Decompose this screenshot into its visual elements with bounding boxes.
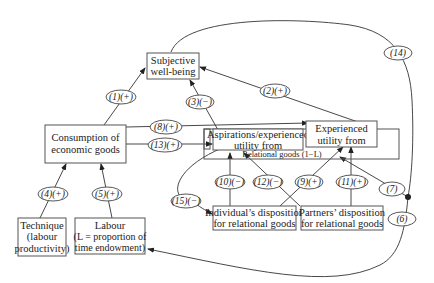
node-aspirations-line2: utility from: [234, 140, 282, 151]
node-aspirations: Aspirations/experienced utility from: [204, 129, 310, 151]
node-labour-line1: Labour: [95, 220, 126, 231]
edge-label-14: (14): [384, 46, 412, 60]
node-partners-disposition: Partners’ disposition for relational goo…: [299, 206, 386, 230]
node-subjective-wellbeing: Subjective well-being: [147, 53, 199, 79]
junction-dot: [405, 194, 411, 200]
edge-label-9: (9)(+): [295, 175, 323, 189]
edge-label-15: (15)(−): [171, 194, 201, 208]
edge-label-15-text: (15)(−): [172, 196, 201, 207]
causal-diagram: Subjective well-being Consumption of eco…: [0, 0, 434, 283]
node-technique-line3: productivity): [15, 243, 70, 255]
node-labour-line3: time endowment): [75, 242, 145, 254]
node-consumption-line2: economic goods: [51, 144, 120, 155]
node-experienced-line1: Experienced: [315, 123, 368, 134]
node-experienced-line2: utility from: [317, 135, 365, 146]
edge-label-1: (1)(+): [106, 90, 136, 104]
node-technique: Technique (labour productivity): [15, 218, 70, 256]
edge-label-12: (12)(−): [253, 175, 283, 189]
edge-label-9-text: (9)(+): [297, 177, 321, 188]
node-individual-disposition: Individual’s disposition for relational …: [205, 206, 305, 230]
node-subjective-wellbeing-line2: well-being: [151, 66, 197, 77]
edge-label-14-text: (14): [390, 48, 406, 59]
edge-label-6-text: (6): [396, 214, 407, 225]
edge-label-7-text: (7): [386, 184, 397, 195]
edge-label-5-text: (5)(+): [95, 189, 119, 200]
node-individual-disposition-line2: for relational goods: [213, 218, 295, 229]
edge-label-11-text: (11)(+): [338, 177, 366, 188]
node-technique-line2: (labour: [27, 231, 58, 243]
edge-label-13: (13)(+): [148, 138, 182, 152]
edge-label-11: (11)(+): [336, 175, 368, 189]
edge-label-3-text: (3)(−): [188, 97, 212, 108]
edge-label-1-text: (1)(+): [109, 92, 133, 103]
node-aspirations-line1: Aspirations/experienced: [207, 129, 310, 140]
edge-label-8-text: (8)(+): [154, 122, 178, 133]
edge-14: [171, 21, 413, 197]
node-partners-disposition-line1: Partners’ disposition: [299, 207, 386, 218]
node-partners-disposition-line2: for relational goods: [301, 218, 383, 229]
edge-label-6: (6): [388, 212, 416, 226]
node-labour: Labour (L = proportion of time endowment…: [74, 218, 147, 254]
edge-label-5: (5)(+): [92, 187, 122, 201]
edge-label-7: (7): [379, 182, 405, 196]
node-individual-disposition-line1: Individual’s disposition: [205, 207, 305, 218]
edge-label-4-text: (4)(+): [41, 189, 65, 200]
edge-label-8: (8)(+): [150, 120, 182, 134]
edge-label-2-text: (2)(+): [263, 86, 287, 97]
edge-label-10: (10)(−): [215, 175, 245, 189]
edge-label-13-text: (13)(+): [151, 140, 180, 151]
edge-label-2: (2)(+): [260, 84, 290, 98]
edge-label-3: (3)(−): [186, 95, 214, 109]
node-technique-line1: Technique: [20, 220, 64, 231]
node-experienced: Experienced utility from: [306, 121, 377, 147]
node-consumption: Consumption of economic goods: [45, 125, 126, 163]
node-subjective-wellbeing-line1: Subjective: [151, 55, 196, 66]
edge-label-12-text: (12)(−): [254, 177, 283, 188]
node-consumption-line1: Consumption of: [52, 132, 120, 143]
edge-label-10-text: (10)(−): [216, 177, 245, 188]
edge-label-4: (4)(+): [38, 187, 68, 201]
